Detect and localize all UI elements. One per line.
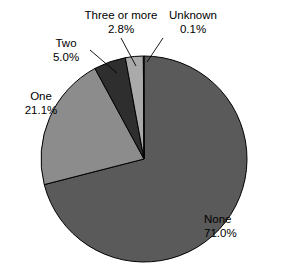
- pie-label-three-or-more: Three or more 2.8%: [73, 9, 169, 36]
- pie-slice-unknown[interactable]: [143, 56, 144, 159]
- pie-label-one-value: 21.1%: [14, 104, 68, 118]
- pie-label-none-name: None: [204, 213, 237, 227]
- pie-label-unknown-value: 0.1%: [162, 23, 224, 37]
- pie-label-one-name: One: [14, 90, 68, 104]
- pie-label-unknown-name: Unknown: [162, 9, 224, 23]
- pie-label-none: None 71.0%: [204, 213, 237, 240]
- pie-label-three-or-more-value: 2.8%: [73, 23, 169, 37]
- pie-label-none-value: 71.0%: [204, 227, 237, 241]
- pie-label-three-or-more-name: Three or more: [73, 9, 169, 23]
- pie-chart-graphic: [0, 0, 283, 278]
- pie-label-two-name: Two: [44, 37, 88, 51]
- pie-label-two-value: 5.0%: [44, 51, 88, 65]
- pie-label-unknown: Unknown 0.1%: [162, 9, 224, 36]
- pie-chart-figure: None 71.0% One 21.1% Two 5.0% Three or m…: [0, 0, 283, 278]
- pie-label-two: Two 5.0%: [44, 37, 88, 64]
- pie-label-one: One 21.1%: [14, 90, 68, 117]
